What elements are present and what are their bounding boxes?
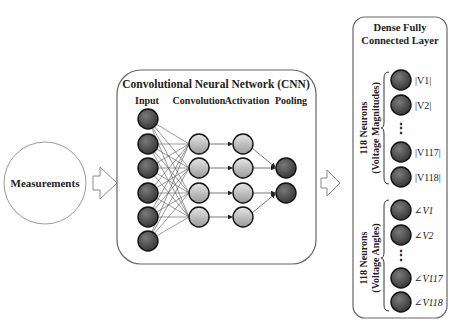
angle-label-v2: ∠V2 [414, 230, 434, 241]
input-node [138, 231, 158, 251]
convolution-node [189, 207, 209, 227]
magnitude-node [391, 142, 411, 162]
magnitude-node [391, 167, 411, 187]
pooling-node [276, 158, 296, 178]
svg-text:(Voltage Magnitudes): (Voltage Magnitudes) [370, 82, 382, 174]
layer-label-convolution: Convolution [173, 95, 226, 106]
layer-label-input: Input [135, 95, 160, 106]
activation-node [233, 134, 253, 154]
dense-title-line1: Dense Fully [374, 22, 428, 33]
layer-label-activation: Activation [225, 95, 270, 106]
activation-node [233, 183, 253, 203]
cnn-title: Convolutional Neural Network (CNN) [122, 78, 310, 91]
angle-label-v117: ∠V117 [414, 273, 444, 284]
angle-node [391, 225, 411, 245]
magnitude-node [391, 70, 411, 90]
input-node [138, 109, 158, 129]
layer-label-pooling: Pooling [275, 95, 307, 106]
magnitude-label-v1: |V1| [415, 75, 431, 86]
flow-arrow-icon [321, 170, 340, 196]
svg-text:118 Neurons: 118 Neurons [358, 101, 369, 154]
svg-text:118 Neurons: 118 Neurons [358, 231, 369, 284]
magnitude-label-v117: |V117| [415, 147, 441, 158]
input-node [138, 183, 158, 203]
activation-node [233, 207, 253, 227]
pooling-node [276, 183, 296, 203]
dense-title-line2: Connected Layer [361, 35, 439, 46]
magnitudes-ellipsis: ⋮ [394, 121, 408, 136]
magnitude-label-v118: |V118| [415, 172, 441, 183]
convolution-node [189, 134, 209, 154]
input-node [138, 207, 158, 227]
measurements-input: Measurements [4, 142, 86, 224]
angle-node [391, 292, 411, 312]
angles-group-label: 118 Neurons (Voltage Angles) [358, 223, 382, 292]
cnn-architecture-diagram: Measurements Convolutional Neural Networ… [0, 0, 461, 333]
convolution-node [189, 158, 209, 178]
measurements-label: Measurements [11, 177, 81, 189]
convolution-node [189, 183, 209, 203]
magnitude-label-v2: |V2| [415, 100, 431, 111]
angle-node [391, 268, 411, 288]
input-node [138, 134, 158, 154]
flow-arrow-icon [93, 167, 117, 199]
input-node [138, 158, 158, 178]
angles-ellipsis: ⋮ [394, 248, 408, 263]
angle-label-v118: ∠V118 [414, 297, 443, 308]
activation-node [233, 158, 253, 178]
angle-label-v1: ∠V1 [414, 205, 434, 216]
magnitude-node [391, 95, 411, 115]
angle-node [391, 200, 411, 220]
svg-text:(Voltage Angles): (Voltage Angles) [370, 223, 382, 292]
